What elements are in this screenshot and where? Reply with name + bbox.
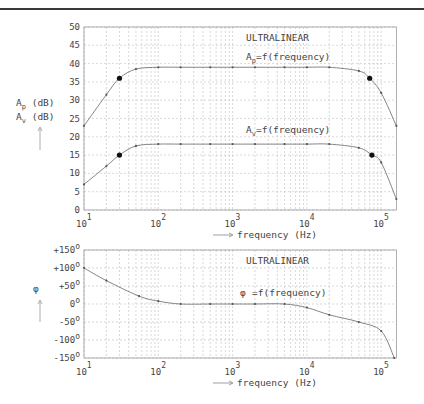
y-tick-label: +100o [53,260,80,273]
data-point [306,307,308,309]
phase-plot: +150o+100o+50o0o-50o-100o-150o1011021031… [53,242,396,377]
bottom-plot-title: ULTRALINEAR [246,255,309,266]
cutoff-point-marker [367,76,372,81]
y-tick-label: +50o [59,278,80,291]
x-tick-label: 103 [225,213,241,229]
x-tick-label: 104 [299,361,315,377]
data-point [232,143,234,145]
data-point [358,321,360,323]
data-point [328,314,330,316]
y-tick-label: +150o [53,242,80,255]
x-tick-label: 101 [76,213,92,229]
y-tick-label: 25 [69,114,80,124]
x-tick-label: 101 [76,361,92,377]
y-tick-label: -100o [53,332,80,345]
phi-curve-label: =f(frequency) [252,287,326,298]
svg-text:frequency (Hz): frequency (Hz) [237,229,317,240]
y-tick-label: -150o [53,350,80,363]
frequency-response-chart: 05101520253035404550101102103104105 +150… [0,0,424,404]
data-point [358,147,360,149]
svg-text:frequency (Hz): frequency (Hz) [237,377,317,388]
y-tick-label: 10 [69,168,80,178]
data-point [393,357,395,359]
av-axis-label: Av (dB) [16,111,55,125]
x-tick-label: 104 [299,213,315,229]
data-point [105,94,107,96]
y-tick-label: 45 [69,40,80,50]
ap-curve-label: Ap=f(frequency) [246,51,330,65]
data-point [254,66,256,68]
data-point [328,143,330,145]
data-point [395,125,397,127]
data-point [232,303,234,305]
y-tick-label: 35 [69,77,80,87]
data-point [157,300,159,302]
data-point [105,280,107,282]
data-point [135,145,137,147]
x-tick-label: 105 [373,213,389,229]
x-tick-label: 102 [150,213,166,229]
cutoff-point-marker [117,76,122,81]
series-line [84,144,396,199]
series-line [84,268,394,358]
x-tick-label: 102 [150,361,166,377]
data-point [232,66,234,68]
y-tick-label: -50o [59,314,80,327]
data-point [209,303,211,305]
x-tick-label: 105 [373,361,389,377]
data-point [180,143,182,145]
y-tick-label: 15 [69,150,80,160]
up-arrow-icon [38,127,42,150]
data-point [380,330,382,332]
y-tick-label: 30 [69,95,80,105]
data-point [306,66,308,68]
av-curve-label: Av=f(frequency) [246,124,330,138]
x-axis-label-top: frequency (Hz) [213,229,317,240]
data-point [180,66,182,68]
cutoff-point-marker [369,153,374,158]
data-point [157,66,159,68]
y-tick-label: 5 [75,187,80,197]
y-tick-label: 50 [69,22,80,32]
cutoff-point-marker [117,153,122,158]
top-plot-title: ULTRALINEAR [246,32,309,43]
data-point [135,68,137,70]
series-line [84,67,396,126]
phi-axis-label: φ [33,283,39,294]
data-point [254,303,256,305]
data-point [157,143,159,145]
data-point [283,303,285,305]
data-point [283,143,285,145]
data-point [138,295,140,297]
data-point [380,92,382,94]
y-tick-label: 0o [70,296,80,309]
x-tick-label: 103 [225,361,241,377]
x-axis-label-bottom: frequency (Hz) [213,377,317,388]
data-point [83,267,85,269]
y-tick-label: 0 [75,205,80,215]
data-point [209,66,211,68]
data-point [358,70,360,72]
up-arrow-icon [38,300,42,322]
y-tick-label: 40 [69,59,80,69]
data-point [380,161,382,163]
data-point [180,303,182,305]
phi-symbol: φ [240,287,246,298]
data-point [83,183,85,185]
data-point [83,125,85,127]
gain-plot: 05101520253035404550101102103104105 [69,22,397,229]
y-tick-label: 20 [69,132,80,142]
data-point [283,66,285,68]
data-point [105,165,107,167]
data-point [395,198,397,200]
data-point [328,66,330,68]
data-point [306,143,308,145]
data-point [254,143,256,145]
data-point [209,143,211,145]
ap-axis-label: Ap (dB) [16,97,55,111]
